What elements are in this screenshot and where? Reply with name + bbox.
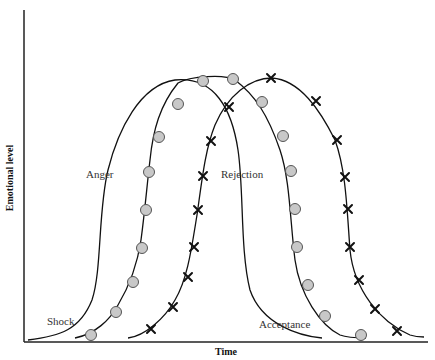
y-axis-title: Emotional level [4,145,15,212]
x-axis-title: Time [215,346,238,357]
circle-markers [86,74,367,341]
circle-curve [75,76,366,338]
x-markers [147,74,401,335]
label-acceptance: Acceptance [259,318,310,330]
emotional-curves-chart: Shock Anger Rejection Acceptance Time Em… [0,0,435,360]
label-anger: Anger [86,168,114,180]
label-shock: Shock [47,315,75,327]
x-curve [128,78,424,338]
label-rejection: Rejection [221,168,264,180]
